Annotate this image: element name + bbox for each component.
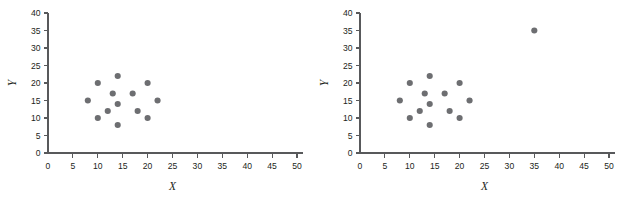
x-axis-tick-label: 15: [118, 161, 128, 171]
data-point: [130, 90, 136, 96]
scatter-panel-right: 051015202530354005101520253035404550XY: [312, 0, 624, 203]
data-point: [85, 97, 91, 103]
scatterplot-figure: 051015202530354005101520253035404550XY 0…: [0, 0, 624, 203]
y-axis-tick-label: 40: [31, 8, 41, 18]
x-axis-tick-label: 35: [530, 161, 540, 171]
data-point: [105, 108, 111, 114]
data-point: [154, 97, 160, 103]
y-axis-tick-label: 15: [31, 96, 41, 106]
x-axis-tick-label: 35: [218, 161, 228, 171]
x-axis-tick-label: 20: [455, 161, 465, 171]
y-axis-tick-label: 40: [343, 8, 353, 18]
y-axis-tick-label: 10: [343, 113, 353, 123]
data-point: [145, 115, 151, 121]
y-axis-tick-label: 30: [343, 43, 353, 53]
y-axis-title: Y: [318, 78, 330, 86]
x-axis-tick-label: 15: [430, 161, 440, 171]
x-axis-tick-label: 45: [267, 161, 277, 171]
x-axis-tick-label: 10: [405, 161, 415, 171]
x-axis-tick-label: 25: [168, 161, 178, 171]
data-point: [466, 97, 472, 103]
data-point: [457, 80, 463, 86]
scatter-plot-left-svg: 051015202530354005101520253035404550XY: [0, 0, 312, 203]
data-point: [135, 108, 141, 114]
y-axis-title: Y: [6, 78, 18, 86]
y-axis-tick-label: 0: [36, 148, 41, 158]
x-axis-tick-label: 20: [143, 161, 153, 171]
y-axis-tick-label: 20: [343, 78, 353, 88]
data-point: [95, 80, 101, 86]
axis-lines: [48, 13, 303, 153]
data-point: [407, 80, 413, 86]
x-axis-tick-label: 50: [292, 161, 302, 171]
data-point: [95, 115, 101, 121]
data-point: [427, 122, 433, 128]
scatter-panel-left: 051015202530354005101520253035404550XY: [0, 0, 312, 203]
x-axis-tick-label: 5: [383, 161, 388, 171]
x-axis-tick-label: 0: [358, 161, 363, 171]
data-point: [417, 108, 423, 114]
data-point: [447, 108, 453, 114]
y-axis-tick-label: 25: [343, 61, 353, 71]
data-point: [531, 27, 537, 33]
y-axis-tick-label: 35: [31, 26, 41, 36]
x-axis-tick-label: 10: [93, 161, 103, 171]
data-point: [457, 115, 463, 121]
data-point: [115, 122, 121, 128]
y-axis-tick-label: 5: [36, 131, 41, 141]
x-axis-tick-label: 25: [480, 161, 490, 171]
data-point: [427, 101, 433, 107]
x-axis-title: X: [480, 180, 489, 192]
data-point: [110, 90, 116, 96]
x-axis-tick-label: 45: [579, 161, 589, 171]
y-axis-tick-label: 5: [348, 131, 353, 141]
data-point: [115, 101, 121, 107]
data-point: [427, 73, 433, 79]
data-point: [397, 97, 403, 103]
x-axis-tick-label: 30: [505, 161, 515, 171]
data-point: [407, 115, 413, 121]
data-point: [442, 90, 448, 96]
y-axis-tick-label: 25: [31, 61, 41, 71]
y-axis-tick-label: 35: [343, 26, 353, 36]
y-axis-tick-label: 30: [31, 43, 41, 53]
data-point: [115, 73, 121, 79]
x-axis-tick-label: 40: [242, 161, 252, 171]
y-axis-tick-label: 20: [31, 78, 41, 88]
y-axis-tick-label: 15: [343, 96, 353, 106]
x-axis-tick-label: 0: [46, 161, 51, 171]
x-axis-tick-label: 50: [604, 161, 614, 171]
data-point: [422, 90, 428, 96]
scatter-plot-right-svg: 051015202530354005101520253035404550XY: [312, 0, 624, 203]
x-axis-tick-label: 5: [71, 161, 76, 171]
y-axis-tick-label: 0: [348, 148, 353, 158]
x-axis-tick-label: 40: [554, 161, 564, 171]
x-axis-title: X: [168, 180, 177, 192]
axis-lines: [360, 13, 615, 153]
data-point: [145, 80, 151, 86]
x-axis-tick-label: 30: [193, 161, 203, 171]
y-axis-tick-label: 10: [31, 113, 41, 123]
